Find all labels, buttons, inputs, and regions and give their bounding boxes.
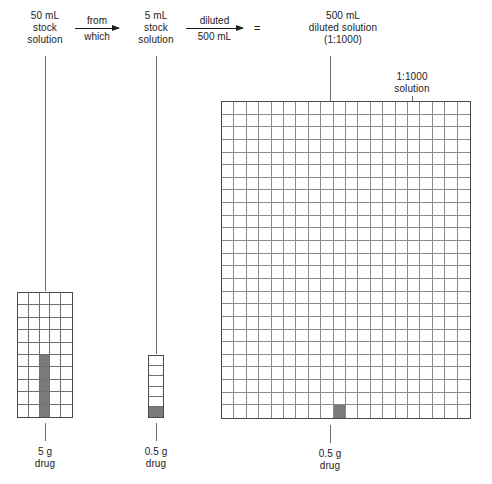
grid-cell xyxy=(222,241,234,254)
node-label-50ml-stock: 50 mL stock solution xyxy=(7,10,83,46)
grid-cell xyxy=(222,254,234,267)
grid-cell xyxy=(408,127,420,140)
grid-cell xyxy=(408,216,420,229)
grid-cell xyxy=(433,241,445,254)
grid-cell xyxy=(309,367,321,380)
grid-cell xyxy=(445,355,457,368)
grid-cell xyxy=(40,293,51,305)
grid-cell xyxy=(222,102,234,115)
grid-cell-shaded xyxy=(40,392,51,404)
grid-cell xyxy=(259,292,271,305)
grid-cell xyxy=(420,115,432,128)
grid-cell xyxy=(222,304,234,317)
grid-cell xyxy=(234,178,246,191)
grid-cell xyxy=(234,127,246,140)
grid-cell xyxy=(296,165,308,178)
grid-cell xyxy=(458,178,470,191)
grid-cell xyxy=(309,190,321,203)
grid-cell xyxy=(433,279,445,292)
grid-cell xyxy=(346,292,358,305)
grid-cell xyxy=(29,380,40,392)
grid-cell xyxy=(371,153,383,166)
grid-cell xyxy=(358,165,370,178)
grid-cell xyxy=(29,367,40,379)
grid-cell xyxy=(445,254,457,267)
grid-cell xyxy=(61,392,72,404)
grid-cell xyxy=(396,190,408,203)
grid-cell xyxy=(383,203,395,216)
grid-cell xyxy=(272,228,284,241)
grid-cell xyxy=(284,405,296,418)
grid-cell xyxy=(50,318,61,330)
grid-cell xyxy=(371,393,383,406)
grid-cell xyxy=(458,102,470,115)
grid-cell xyxy=(284,203,296,216)
grid-cell xyxy=(259,254,271,267)
grid-cell xyxy=(61,343,72,355)
grid-cell xyxy=(433,317,445,330)
grid-cell xyxy=(234,203,246,216)
grid-cell xyxy=(371,380,383,393)
grid-cell xyxy=(259,140,271,153)
grid-cell xyxy=(420,153,432,166)
grid-cell xyxy=(346,393,358,406)
grid-cell xyxy=(433,228,445,241)
grid-cell xyxy=(445,216,457,229)
grid-cell xyxy=(284,153,296,166)
grid-cell xyxy=(321,241,333,254)
grid-cell xyxy=(296,304,308,317)
grid-cell xyxy=(29,405,40,417)
grid-cell xyxy=(284,317,296,330)
grid-cell xyxy=(445,228,457,241)
grid-cell xyxy=(321,317,333,330)
grid-cell xyxy=(358,279,370,292)
grid-cell xyxy=(296,367,308,380)
grid-cell xyxy=(40,330,51,342)
grid-cell xyxy=(420,190,432,203)
grid-cell xyxy=(420,317,432,330)
grid-cell xyxy=(445,241,457,254)
grid-cell xyxy=(346,355,358,368)
grid-cell xyxy=(358,317,370,330)
grid-cell xyxy=(458,203,470,216)
grid-cell xyxy=(433,355,445,368)
grid-cell xyxy=(445,190,457,203)
grid-cell xyxy=(346,153,358,166)
grid-cell xyxy=(445,292,457,305)
grid-cell xyxy=(458,165,470,178)
grid-cell xyxy=(346,115,358,128)
grid-cell xyxy=(371,317,383,330)
grid-cell xyxy=(222,203,234,216)
grid-cell xyxy=(334,190,346,203)
grid-cell xyxy=(296,355,308,368)
bottom-leader-middle xyxy=(156,423,157,441)
grid-cell xyxy=(272,355,284,368)
grid-cell xyxy=(247,330,259,343)
grid-cell xyxy=(396,304,408,317)
grid-cell xyxy=(29,330,40,342)
grid-cell xyxy=(259,190,271,203)
grid-cell xyxy=(272,342,284,355)
grid-cell xyxy=(321,380,333,393)
grid-cell xyxy=(445,342,457,355)
grid-cell xyxy=(358,190,370,203)
grid-cell xyxy=(222,393,234,406)
grid-cell xyxy=(296,216,308,229)
grid-cell xyxy=(284,393,296,406)
grid-cell xyxy=(284,355,296,368)
grid-cell xyxy=(222,140,234,153)
grid-cell xyxy=(259,342,271,355)
grid-cell xyxy=(346,279,358,292)
grid-cell xyxy=(149,376,163,386)
grid-cell xyxy=(50,405,61,417)
grid-cell xyxy=(247,102,259,115)
grid-cell xyxy=(234,140,246,153)
grid-cell xyxy=(408,304,420,317)
grid-cell xyxy=(50,305,61,317)
grid-cell xyxy=(358,102,370,115)
grid-cell xyxy=(247,115,259,128)
grid-cell xyxy=(309,228,321,241)
grid-cell xyxy=(358,254,370,267)
grid-cell xyxy=(334,355,346,368)
grid-cell xyxy=(396,140,408,153)
